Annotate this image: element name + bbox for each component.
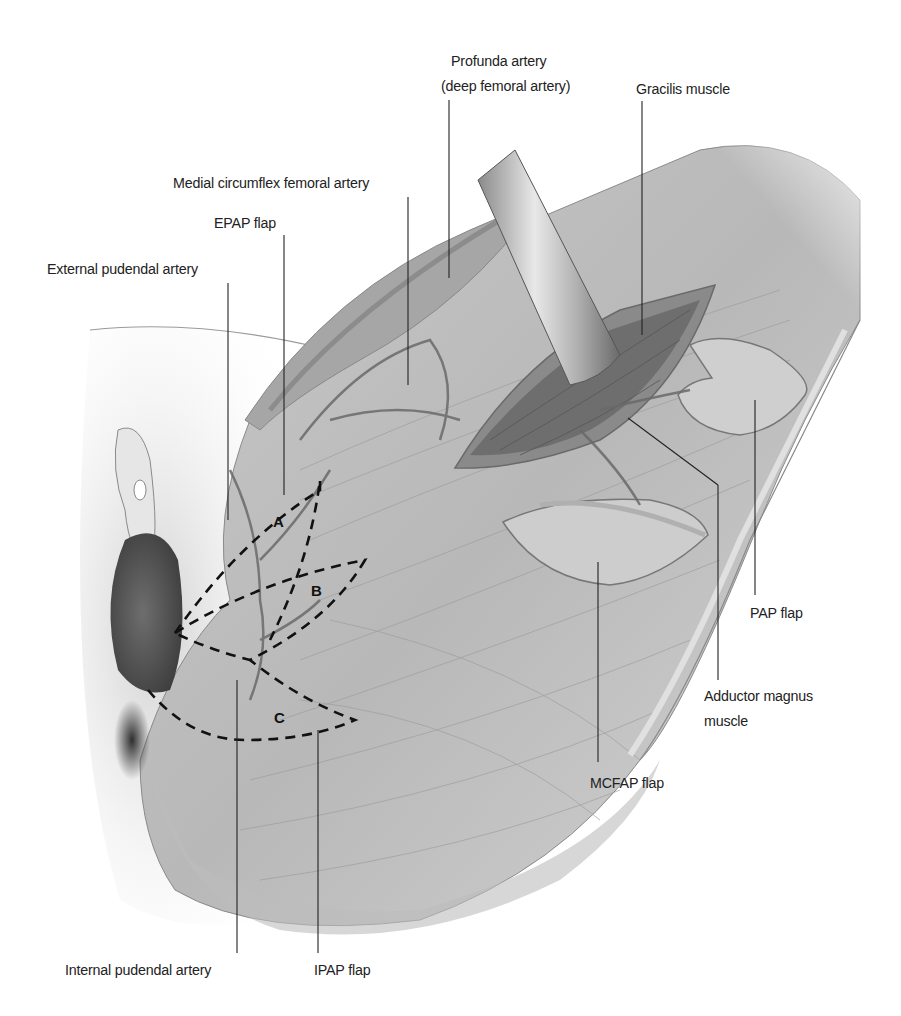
label-ipap-flap: IPAP flap — [314, 957, 370, 982]
label-adductor-magnus-muscle: muscle — [704, 708, 748, 733]
label-medial-circumflex-femoral-artery: Medial circumflex femoral artery — [173, 170, 369, 195]
zone-b-marker: B — [311, 582, 322, 599]
label-mcfap-flap: MCFAP flap — [590, 770, 664, 795]
label-epap-flap: EPAP flap — [214, 210, 276, 235]
label-pap-flap: PAP flap — [750, 600, 803, 625]
label-gracilis-muscle: Gracilis muscle — [636, 76, 730, 101]
label-internal-pudendal-artery: Internal pudendal artery — [65, 957, 211, 982]
label-external-pudendal-artery: External pudendal artery — [47, 256, 198, 281]
zone-c-marker: C — [274, 709, 285, 726]
label-adductor-magnus: Adductor magnus — [704, 683, 813, 708]
label-profunda-artery-sub: (deep femoral artery) — [441, 73, 570, 98]
label-profunda-artery: Profunda artery — [451, 48, 547, 73]
zone-a-marker: A — [273, 513, 284, 530]
anatomy-illustration — [0, 0, 901, 1016]
